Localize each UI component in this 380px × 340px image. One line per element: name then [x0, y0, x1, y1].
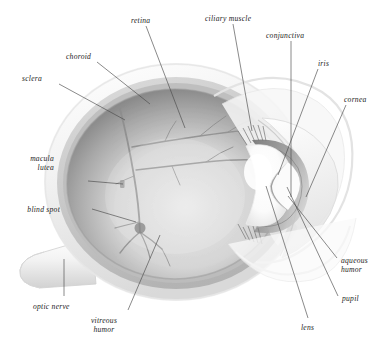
label-conjunctiva: conjunctiva — [266, 31, 304, 40]
label-ciliary-muscle: ciliary muscle — [205, 14, 251, 23]
label-vitreous-humor: vitreous humor — [75, 316, 133, 335]
label-pupil: pupil — [342, 294, 359, 303]
label-aqueous-line2: humor — [341, 265, 368, 274]
label-aqueous-humor: aqueous humor — [341, 256, 368, 275]
label-vitreous-line2: humor — [75, 325, 133, 334]
label-retina: retina — [131, 16, 150, 25]
label-blind-spot: blind spot — [0, 205, 60, 214]
label-macula-lutea: macula lutea — [0, 154, 54, 173]
label-optic-nerve: optic nerve — [33, 302, 70, 311]
label-choroid: choroid — [66, 52, 91, 61]
eye-anatomy-diagram: retina ciliary muscle conjunctiva choroi… — [0, 0, 380, 340]
label-vitreous-line1: vitreous — [75, 316, 133, 325]
label-lens: lens — [301, 323, 314, 332]
label-aqueous-line1: aqueous — [341, 256, 368, 265]
label-cornea: cornea — [344, 95, 367, 104]
label-macula-line2: lutea — [0, 163, 54, 172]
label-iris: iris — [318, 59, 329, 68]
label-sclera: sclera — [22, 74, 42, 83]
label-macula-line1: macula — [0, 154, 54, 163]
eye-illustration — [0, 0, 380, 340]
